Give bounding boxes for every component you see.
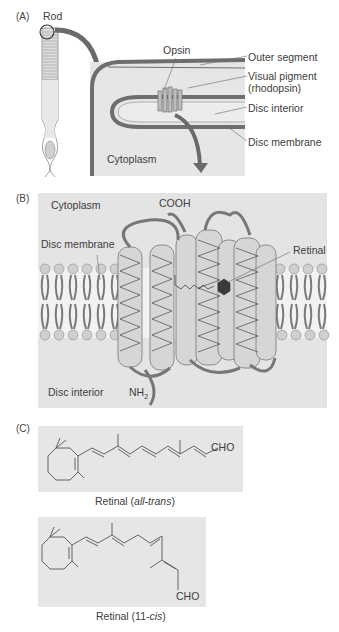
caption-all-trans-italic: all-trans [134, 495, 171, 507]
diagram-canvas [0, 0, 339, 632]
caption-11-cis: Retinal (11-cis) [96, 610, 166, 622]
cho-label-all-trans: CHO [211, 441, 234, 453]
caption-all-trans-suffix: ) [171, 495, 175, 507]
panel-c-letter: (C) [16, 423, 30, 434]
nh2-subscript: 2 [144, 393, 148, 400]
disc-membrane-label-b: Disc membrane [41, 238, 115, 250]
caption-all-trans-prefix: Retinal ( [95, 495, 134, 507]
outer-segment-label: Outer segment [248, 51, 317, 63]
nh2-label: NH2 [129, 386, 148, 403]
caption-11-cis-italic: cis [150, 610, 163, 622]
cooh-label: COOH [159, 197, 191, 209]
caption-all-trans: Retinal (all-trans) [95, 495, 175, 507]
panel-b-letter: (B) [16, 193, 29, 204]
caption-11-cis-prefix: Retinal (11- [96, 610, 150, 622]
visual-pigment-label: Visual pigment [248, 70, 317, 82]
caption-11-cis-suffix: ) [162, 610, 166, 622]
rhodopsin-label: (rhodopsin) [248, 82, 301, 94]
opsin-label: Opsin [163, 44, 190, 56]
cho-label-11-cis: CHO [176, 590, 199, 602]
disc-interior-label-b: Disc interior [48, 386, 103, 398]
disc-membrane-label-a: Disc membrane [248, 136, 322, 148]
rhodopsin-membrane-illustration [38, 193, 329, 408]
rod-cell-illustration [40, 25, 58, 177]
retinal-label: Retinal [293, 244, 326, 256]
cytoplasm-label-a: Cytoplasm [107, 153, 157, 165]
nh2-text: NH [129, 386, 144, 398]
cytoplasm-label-b: Cytoplasm [51, 199, 101, 211]
retinal-all-trans-structure [38, 426, 243, 492]
disc-interior-label-a: Disc interior [248, 102, 303, 114]
